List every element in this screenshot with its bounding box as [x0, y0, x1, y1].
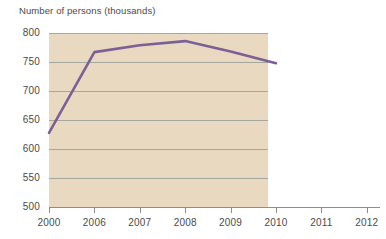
plot-background-area — [49, 33, 268, 207]
y-axis-tick-label: 750 — [8, 56, 40, 67]
x-axis-tick-label: 2007 — [118, 217, 162, 228]
x-axis-tick-label: 2009 — [209, 217, 253, 228]
x-axis-tick-label: 2012 — [345, 217, 386, 228]
y-axis-tick-label: 500 — [8, 201, 40, 212]
line-chart-plot — [0, 0, 386, 239]
y-axis-tick-label: 650 — [8, 114, 40, 125]
plot-background-group — [49, 33, 268, 207]
y-axis-tick-label: 600 — [8, 143, 40, 154]
x-axis-tick-label: 2011 — [299, 217, 343, 228]
x-axis-tick-label: 2006 — [72, 217, 116, 228]
y-axis-tick-label: 800 — [8, 27, 40, 38]
chart-container: Number of persons (thousands) 5005506006… — [0, 0, 386, 239]
x-axis-tick-label: 2008 — [163, 217, 207, 228]
y-axis-tick-label: 700 — [8, 85, 40, 96]
x-axis-tick-label: 2010 — [254, 217, 298, 228]
y-axis-tick-label: 550 — [8, 172, 40, 183]
x-axis-tick-label: 2000 — [27, 217, 71, 228]
